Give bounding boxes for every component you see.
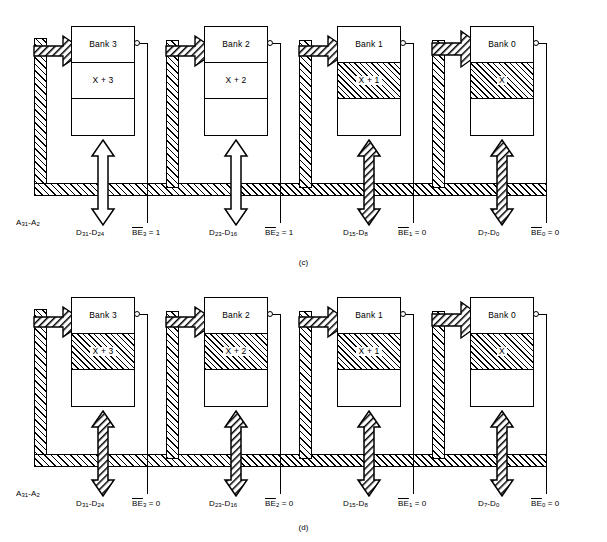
data-label-1-d: D15-D8 [343, 499, 368, 508]
bank-0-c-value-cell: X [471, 63, 533, 100]
bank-0-c-title: Bank 0 [471, 27, 533, 63]
be-label-1-c: BE1 = 0 [398, 228, 426, 237]
be0-v-d [546, 314, 547, 494]
be-label-3-d: BE3 = 0 [132, 499, 160, 508]
bank-1-c-title: Bank 1 [338, 27, 400, 63]
data-arrow-bank0-c [491, 140, 515, 225]
bank-3-d: Bank 3 X + 3 [71, 297, 135, 407]
bank-3-c-empty [72, 99, 134, 135]
bank-2-c-value: X + 2 [205, 63, 267, 100]
bank-3-d-value-cell: X + 3 [72, 334, 134, 371]
panel-c: Bank 3 X + 3 Bank 2 X + 2 Bank 1 X + 1 B… [0, 0, 607, 275]
address-label-d: A31-A2 [16, 489, 40, 498]
be-label-0-d: BE0 = 0 [531, 499, 559, 508]
bank-2-d-value-cell: X + 2 [205, 334, 267, 371]
data-label-2-d: D23-D16 [209, 499, 237, 508]
bank-2-d: Bank 2 X + 2 [204, 297, 268, 407]
data-arrow-bank1-c [358, 140, 382, 225]
bank-2-d-title: Bank 2 [205, 298, 267, 334]
bank-3-d-title: Bank 3 [72, 298, 134, 334]
be3-v-d [147, 314, 148, 494]
bank-1-d-empty [338, 370, 400, 406]
data-label-2-c: D23-D16 [209, 228, 237, 237]
figure-root: Bank 3 X + 3 Bank 2 X + 2 Bank 1 X + 1 B… [0, 0, 607, 542]
bank-1-c: Bank 1 X + 1 [337, 26, 401, 136]
bank-0-d-value: X [497, 347, 507, 356]
data-arrow-bank2-c [225, 140, 249, 225]
bank-0-d-value-cell: X [471, 334, 533, 371]
data-arrow-bank2-d [225, 411, 249, 496]
be-label-0-c: BE0 = 0 [531, 228, 559, 237]
be2-v-d [280, 314, 281, 494]
be-label-3-c: BE3 = 1 [132, 228, 160, 237]
data-label-0-c: D7-D0 [478, 228, 499, 237]
data-label-1-c: D15-D8 [343, 228, 368, 237]
bank-2-c-empty [205, 99, 267, 135]
be-label-2-d: BE2 = 0 [265, 499, 293, 508]
data-arrow-bank3-c [92, 140, 116, 225]
data-arrow-bank0-d [491, 411, 515, 496]
be-label-1-d: BE1 = 0 [398, 499, 426, 508]
data-label-3-d: D31-D24 [76, 499, 104, 508]
bank-1-d: Bank 1 X + 1 [337, 297, 401, 407]
caption-c: (c) [0, 258, 607, 267]
bank-3-c-value: X + 3 [72, 63, 134, 100]
bank-0-d: Bank 0 X [470, 297, 534, 407]
bank-1-c-value: X + 1 [356, 76, 381, 85]
data-arrow-bank1-d [358, 411, 382, 496]
bank-0-d-empty [471, 370, 533, 406]
be-label-2-c: BE2 = 1 [265, 228, 293, 237]
bank-3-c: Bank 3 X + 3 [71, 26, 135, 136]
data-arrow-bank3-d [92, 411, 116, 496]
bank-2-d-empty [205, 370, 267, 406]
bank-0-d-title: Bank 0 [471, 298, 533, 334]
bank-3-d-empty [72, 370, 134, 406]
be1-v-c [413, 43, 414, 223]
bank-0-c-empty [471, 99, 533, 135]
bank-3-c-title: Bank 3 [72, 27, 134, 63]
bank-0-c: Bank 0 X [470, 26, 534, 136]
bank-1-c-empty [338, 99, 400, 135]
bank-0-c-value: X [497, 76, 507, 85]
panel-d: Bank 3 X + 3 Bank 2 X + 2 Bank 1 X + 1 B… [0, 271, 607, 542]
bank-1-c-value-cell: X + 1 [338, 63, 400, 100]
bank-2-c-title: Bank 2 [205, 27, 267, 63]
bank-2-d-value: X + 2 [223, 347, 248, 356]
bank-1-d-value: X + 1 [356, 347, 381, 356]
bank-1-d-value-cell: X + 1 [338, 334, 400, 371]
caption-d: (d) [0, 523, 607, 532]
bank-1-d-title: Bank 1 [338, 298, 400, 334]
be2-v-c [280, 43, 281, 223]
bank-3-d-value: X + 3 [90, 347, 115, 356]
be1-v-d [413, 314, 414, 494]
be3-v-c [147, 43, 148, 223]
data-label-0-d: D7-D0 [478, 499, 499, 508]
address-label-c: A31-A2 [16, 218, 40, 227]
be0-v-c [546, 43, 547, 223]
bank-2-c: Bank 2 X + 2 [204, 26, 268, 136]
data-label-3-c: D31-D24 [76, 228, 104, 237]
